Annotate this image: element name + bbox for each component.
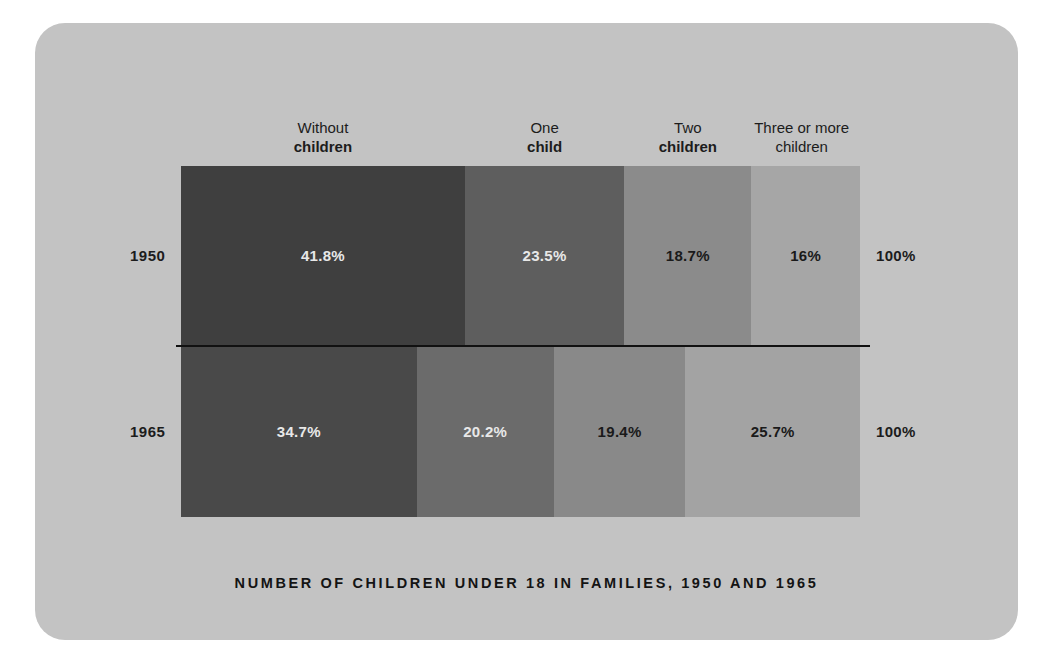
bar-segment: 19.4% xyxy=(554,346,686,517)
bar-segment-value: 23.5% xyxy=(523,247,567,264)
bar-segment: 23.5% xyxy=(465,166,625,345)
column-header-two-children: Two children xyxy=(659,118,717,156)
bar-segment-value: 41.8% xyxy=(301,247,345,264)
bar-segment: 20.2% xyxy=(417,346,554,517)
bar-segment: 41.8% xyxy=(181,166,465,345)
bar-segment: 18.7% xyxy=(624,166,751,345)
row-label-1950: 1950 xyxy=(130,247,165,264)
column-header-line2: children xyxy=(294,137,352,156)
plot-area: 41.8%23.5%18.7%16% 34.7%20.2%19.4%25.7% xyxy=(181,166,860,517)
bar-segment-value: 20.2% xyxy=(463,423,507,440)
column-header-one-child: One child xyxy=(527,118,562,156)
bar-segment-value: 25.7% xyxy=(751,423,795,440)
bar-segment: 25.7% xyxy=(685,346,860,517)
column-header-line1: Without xyxy=(294,118,352,137)
row-label-1965: 1965 xyxy=(130,423,165,440)
row-divider-line xyxy=(176,345,870,347)
column-header-line1: Three or more xyxy=(754,118,849,137)
bar-segment-value: 34.7% xyxy=(277,423,321,440)
column-header-line1: One xyxy=(527,118,562,137)
bar-row-1965: 34.7%20.2%19.4%25.7% xyxy=(181,346,860,517)
column-header-line2: children xyxy=(754,137,849,156)
column-header-line1: Two xyxy=(659,118,717,137)
chart-card: Without children One child Two children … xyxy=(35,23,1018,640)
bar-segment-value: 19.4% xyxy=(598,423,642,440)
column-header-line2: children xyxy=(659,137,717,156)
chart-title: NUMBER OF CHILDREN UNDER 18 IN FAMILIES,… xyxy=(35,575,1018,591)
row-total-1965: 100% xyxy=(876,423,916,440)
column-header-three-or-more-children: Three or more children xyxy=(754,118,849,156)
bar-segment-value: 16% xyxy=(790,247,821,264)
bar-row-1950: 41.8%23.5%18.7%16% xyxy=(181,166,860,345)
column-header-without-children: Without children xyxy=(294,118,352,156)
column-header-line2: child xyxy=(527,137,562,156)
bar-segment: 16% xyxy=(751,166,860,345)
row-total-1950: 100% xyxy=(876,247,916,264)
bar-segment: 34.7% xyxy=(181,346,417,517)
bar-segment-value: 18.7% xyxy=(666,247,710,264)
